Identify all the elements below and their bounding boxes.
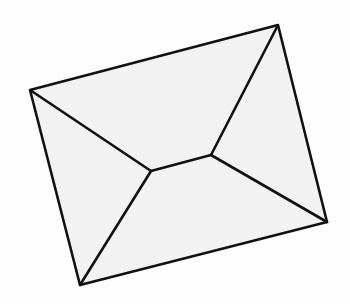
envelope-drawing-canvas [0,0,350,304]
envelope-icon [0,0,350,304]
envelope-body [30,25,327,285]
